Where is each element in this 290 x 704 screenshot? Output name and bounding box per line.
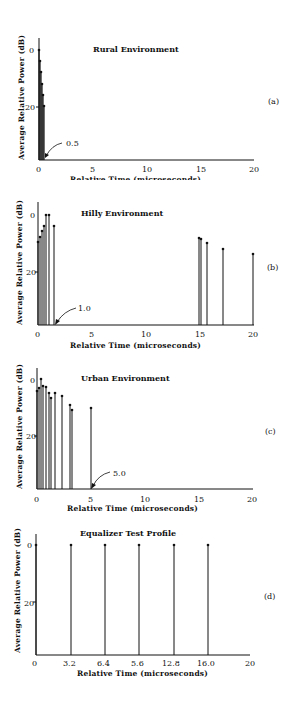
y-tick-label: 0 [27,541,32,550]
x-tick-label: 15 [196,165,206,174]
x-tick-label: 20 [247,495,257,504]
annotation-label: 5.0 [113,469,126,478]
chart-title: Urban Environment [81,373,170,383]
x-tick-label: 5 [88,495,93,504]
panel-tag: (a) [268,97,279,106]
x-tick-label: 16.0 [197,659,215,668]
chart-title: Rural Environment [93,44,179,54]
x-tick-label: 10 [140,495,150,504]
chart-panel-b: Hilly Environment Average Relative Power… [0,180,290,350]
chart-panel-a: Rural Environment Average Relative Power… [0,0,290,180]
y-tick-label: 0 [29,46,34,55]
panel-tag: (d) [264,592,275,601]
annotation-arrow [46,143,62,156]
x-tick-label: 3.2 [63,659,76,668]
x-tick-label: 0 [35,330,40,339]
x-tick-label: 12.8 [162,659,180,668]
annotation-arrow [57,308,76,322]
x-tick-label: 20 [249,165,259,174]
y-tick-label: 0 [30,376,35,385]
x-tick-label: 20 [245,659,255,668]
stems [37,379,91,489]
x-tick-label: 5 [89,330,94,339]
x-tick-label: 0 [32,659,37,668]
x-axis-label: Relative Time (microseconds) [77,669,208,678]
panel-tag: (b) [267,263,278,272]
x-tick-label: 5 [90,165,95,174]
annotation-label: 0.5 [66,139,79,148]
y-tick-label: 20 [25,103,35,112]
y-axis-label: Average Relative Power (dB) [15,364,24,490]
chart-title: Equalizer Test Profile [80,528,176,538]
x-tick-label: 0 [36,165,41,174]
stems [38,215,253,325]
annotation-arrow [93,472,110,486]
panel-tag: (c) [265,427,276,436]
chart-panel-d: Equalizer Test Profile Average Relative … [0,520,290,704]
x-tick-label: 10 [141,330,151,339]
y-tick-label: 20 [24,599,34,608]
x-tick-label: 20 [248,330,258,339]
annotation-label: 1.0 [78,304,91,313]
x-tick-label: 15 [194,495,204,504]
x-axis-label: Relative Time (microseconds) [67,504,198,513]
x-tick-label: 15 [195,330,205,339]
x-tick-label: 5.6 [131,659,144,668]
x-tick-label: 6.4 [97,659,110,668]
y-axis-label: Average Relative Power (dB) [17,35,26,161]
x-tick-label: 0 [34,495,39,504]
y-tick-label: 0 [30,211,35,220]
chart-panel-c: Urban Environment Average Relative Power… [0,350,290,520]
y-axis-label: Average Relative Power (dB) [15,200,24,326]
y-axis-label: Average Relative Power (dB) [13,528,22,654]
y-tick-label: 20 [26,268,36,277]
x-tick-label: 10 [142,165,152,174]
stems [36,545,208,655]
chart-title: Hilly Environment [81,208,163,218]
x-axis-label: Relative Time (microseconds) [70,341,201,350]
